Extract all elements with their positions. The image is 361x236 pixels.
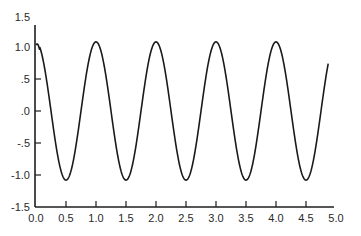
x-tick-label: 0.0 [28, 212, 43, 224]
x-tick-label: 1.0 [88, 212, 103, 224]
y-axis-tick-labels: 1.51.0.5.0-.5-1.0-1.5 [11, 11, 30, 213]
x-tick-label: 2.0 [148, 212, 163, 224]
y-tick-label: -1.5 [11, 201, 30, 213]
x-tick-label: 4.0 [268, 212, 283, 224]
y-tick-label: .0 [21, 105, 30, 117]
x-axis-tick-labels: 0.00.51.01.52.02.53.03.54.04.55.0 [28, 212, 343, 224]
x-tick-label: 0.5 [58, 212, 73, 224]
line-chart: 1.51.0.5.0-.5-1.0-1.5 0.00.51.01.52.02.5… [0, 0, 361, 236]
y-tick-label: 1.5 [15, 11, 30, 23]
y-tick-label: -1.0 [11, 169, 30, 181]
oscillation-curve [36, 42, 328, 180]
y-tick-label: 1.0 [15, 41, 30, 53]
x-tick-label: 1.5 [118, 212, 133, 224]
x-tick-label: 4.5 [298, 212, 313, 224]
y-tick-label: .5 [21, 73, 30, 85]
x-tick-label: 3.5 [238, 212, 253, 224]
y-tick-label: -.5 [17, 137, 30, 149]
x-tick-label: 5.0 [328, 212, 343, 224]
x-tick-label: 3.0 [208, 212, 223, 224]
x-tick-label: 2.5 [178, 212, 193, 224]
